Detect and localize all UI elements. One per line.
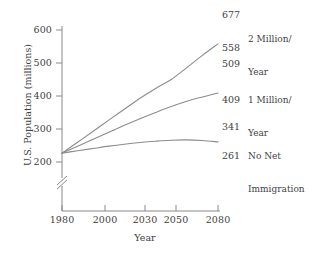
value-label-341: 341 bbox=[222, 121, 240, 132]
population-projection-chart: 600 500 400 300 200 1980 2000 2030 2050 … bbox=[0, 0, 320, 253]
value-label-558: 558 bbox=[222, 42, 240, 53]
series-label-line1: 2 Million/ bbox=[248, 34, 292, 45]
x-tick-label-2080: 2080 bbox=[198, 214, 238, 225]
series-label-line1: 1 Million/ bbox=[248, 95, 292, 106]
series-line-1-million-per-year bbox=[62, 93, 218, 153]
value-label-677: 677 bbox=[222, 9, 240, 20]
value-label-509: 509 bbox=[222, 58, 240, 69]
y-axis-title: U.S. Population (millions) bbox=[22, 30, 33, 180]
x-tick-label-1980: 1980 bbox=[42, 214, 82, 225]
x-tick-label-2050: 2050 bbox=[156, 214, 196, 225]
x-tick-label-2000: 2000 bbox=[85, 214, 125, 225]
series-line-no-net-immigration bbox=[62, 140, 218, 153]
series-label-line2: Immigration bbox=[248, 184, 305, 195]
series-label-no-net-immigration: No Net Immigration bbox=[248, 128, 305, 218]
value-label-409: 409 bbox=[222, 94, 240, 105]
x-axis-title: Year bbox=[110, 232, 180, 243]
value-label-261: 261 bbox=[222, 150, 240, 161]
series-line-2-million-per-year bbox=[62, 44, 218, 153]
series-label-line1: No Net bbox=[248, 151, 305, 162]
